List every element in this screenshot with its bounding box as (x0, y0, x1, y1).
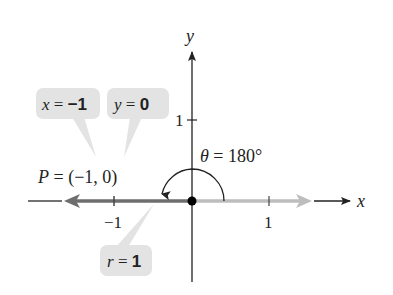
angle-arc (162, 169, 224, 201)
x-axis-label: x (356, 191, 365, 211)
callout-r-text: r = 1 (107, 252, 141, 271)
origin-point (188, 197, 197, 206)
coordinate-diagram: y x −1 1 1 θ = 180° P = (−1, 0) x = −1 y… (0, 0, 393, 295)
callout-x-text: x = −1 (41, 95, 87, 114)
callout-tail-x (72, 117, 96, 157)
x-tick-label-neg1: −1 (104, 213, 122, 232)
point-label: P = (−1, 0) (37, 167, 117, 188)
callout-y-text: y = 0 (112, 95, 149, 114)
y-tick-label-1: 1 (175, 111, 184, 130)
y-axis-label: y (184, 26, 194, 46)
x-tick-label-1: 1 (264, 213, 273, 232)
angle-label: θ = 180° (200, 146, 262, 166)
callout-tail-y (124, 117, 142, 157)
